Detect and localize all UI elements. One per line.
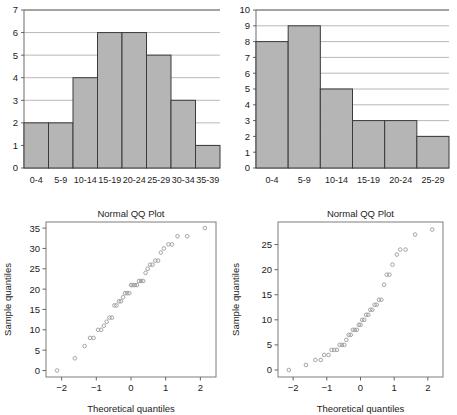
data-point	[83, 344, 87, 348]
data-point	[287, 368, 291, 372]
data-point	[319, 358, 323, 362]
data-points	[55, 226, 206, 372]
y-tick-label-3: 3	[245, 115, 250, 126]
x-tick-label-1: 1	[392, 382, 397, 393]
data-point	[327, 353, 331, 357]
data-point	[391, 263, 395, 267]
y-tick-label-10: 10	[29, 324, 40, 335]
qq-plot-left-panel: Normal QQ Plot05101520253035−2−1012Theor…	[0, 200, 228, 415]
data-point	[146, 267, 150, 271]
y-tick-label-20: 20	[261, 264, 272, 275]
x-tick-label-2: 2	[198, 382, 203, 393]
y-tick-label-25: 25	[29, 263, 40, 274]
bar-0-4	[24, 123, 49, 168]
y-tick-label-20: 20	[29, 284, 40, 295]
data-point	[395, 253, 399, 257]
data-point	[105, 320, 109, 324]
y-tick-label-15: 15	[261, 289, 272, 300]
bottom-left-chart: Normal QQ Plot05101520253035−2−1012Theor…	[0, 200, 228, 415]
data-point	[404, 248, 408, 252]
x-tick-label--1: −1	[321, 382, 332, 393]
y-tick-label-7: 7	[245, 52, 250, 63]
top-right-chart: 0123456789100-45-910-1415-1920-2425-29	[228, 0, 457, 200]
histogram-left-panel: 012345670-45-910-1415-1920-2425-2930-343…	[0, 0, 228, 200]
x-tick-label-0-4: 0-4	[266, 175, 279, 185]
qq-plot-right-panel: Normal QQ Plot0510152025−2−1012Theoretic…	[228, 200, 457, 415]
y-tick-label-0: 0	[245, 162, 250, 173]
y-tick-label-1: 1	[245, 147, 250, 158]
plot-title: Normal QQ Plot	[327, 208, 394, 219]
y-tick-label-0: 0	[13, 162, 18, 173]
y-tick-label-3: 3	[13, 95, 18, 106]
y-tick-label-4: 4	[13, 72, 18, 83]
data-point	[304, 363, 308, 367]
plot-frame	[278, 222, 443, 377]
y-tick-label-30: 30	[29, 243, 40, 254]
bar-30-34	[171, 100, 196, 168]
data-point	[382, 283, 386, 287]
bar-25-29	[147, 55, 172, 168]
data-point	[110, 316, 114, 320]
data-point	[345, 338, 349, 342]
y-tick-label-25: 25	[261, 239, 272, 250]
y-tick-label-5: 5	[13, 50, 18, 61]
data-point	[314, 358, 318, 362]
y-tick-label-7: 7	[13, 4, 18, 15]
x-tick-label-15-19: 15-19	[98, 175, 121, 185]
y-tick-label-0: 0	[267, 364, 272, 375]
plot-frame	[46, 222, 216, 377]
data-point	[398, 248, 402, 252]
bottom-right-chart: Normal QQ Plot0510152025−2−1012Theoretic…	[228, 200, 457, 415]
data-point	[185, 234, 189, 238]
bar-35-39	[196, 145, 221, 168]
x-tick-label--2: −2	[56, 382, 67, 393]
y-axis-title: Sample quantiles	[2, 263, 13, 336]
y-tick-label-35: 35	[29, 223, 40, 234]
y-tick-label-6: 6	[13, 27, 18, 38]
x-tick-label-5-9: 5-9	[54, 175, 67, 185]
x-tick-label--2: −2	[288, 382, 299, 393]
y-tick-label-5: 5	[267, 339, 272, 350]
y-tick-label-1: 1	[13, 140, 18, 151]
data-point	[380, 298, 384, 302]
data-point	[322, 353, 326, 357]
x-tick-label-20-24: 20-24	[389, 175, 412, 185]
plot-title: Normal QQ Plot	[97, 208, 164, 219]
x-tick-label-0: 0	[358, 382, 363, 393]
data-point	[162, 247, 166, 251]
x-axis-title: Theoretical quantiles	[317, 403, 405, 414]
bar-15-19	[98, 33, 123, 168]
y-tick-label-5: 5	[245, 83, 250, 94]
bar-0-4	[256, 42, 288, 168]
x-tick-label-20-24: 20-24	[123, 175, 146, 185]
y-tick-label-10: 10	[261, 314, 272, 325]
bar-5-9	[288, 26, 320, 168]
data-point	[343, 343, 347, 347]
bar-20-24	[122, 33, 147, 168]
y-tick-label-4: 4	[245, 99, 250, 110]
bar-5-9	[49, 123, 74, 168]
x-tick-label-15-19: 15-19	[357, 175, 380, 185]
bar-10-14	[320, 89, 352, 168]
bar-20-24	[385, 121, 417, 168]
bar-10-14	[73, 78, 98, 168]
data-points	[287, 228, 434, 372]
histogram-right-panel: 0123456789100-45-910-1415-1920-2425-29	[228, 0, 457, 200]
x-tick-label-2: 2	[425, 382, 430, 393]
data-point	[121, 295, 125, 299]
data-point	[151, 263, 155, 267]
data-point	[159, 251, 163, 255]
y-axis-title: Sample quantiles	[230, 263, 241, 336]
data-point	[430, 228, 434, 232]
top-left-chart: 012345670-45-910-1415-1920-2425-2930-343…	[0, 0, 228, 200]
y-tick-label-10: 10	[239, 4, 250, 15]
x-tick-label-1: 1	[163, 382, 168, 393]
data-point	[413, 233, 417, 237]
bar-15-19	[353, 121, 385, 168]
y-tick-label-0: 0	[35, 365, 40, 376]
y-tick-label-15: 15	[29, 304, 40, 315]
x-tick-label-10-14: 10-14	[325, 175, 348, 185]
y-tick-label-8: 8	[245, 36, 250, 47]
x-tick-label-10-14: 10-14	[74, 175, 97, 185]
data-point	[102, 324, 106, 328]
